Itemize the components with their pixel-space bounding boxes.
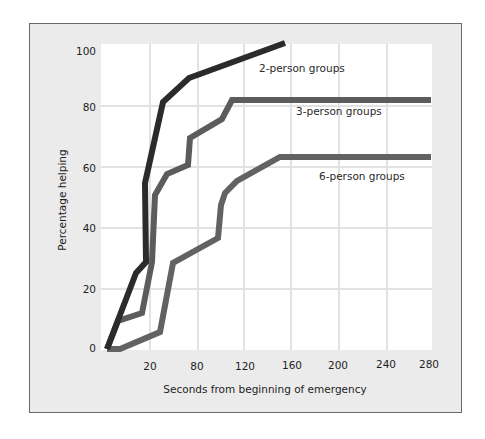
x-tick: 240	[376, 358, 396, 370]
x-tick: 200	[328, 359, 348, 371]
x-tick: 280	[419, 358, 439, 370]
x-tick: 160	[282, 359, 302, 371]
x-axis-title: Seconds from beginning of emergency	[163, 383, 366, 395]
y-axis-title: Percentage helping	[56, 149, 68, 250]
x-tick: 120	[235, 360, 255, 372]
x-tick: 80	[190, 360, 203, 372]
series-label-6-person: 6-person groups	[319, 170, 405, 182]
y-tick: 20	[83, 283, 96, 295]
y-tick: 0	[89, 342, 96, 354]
y-tick: 60	[83, 162, 96, 174]
series-label-2-person: 2-person groups	[259, 62, 345, 74]
x-tick: 20	[143, 360, 156, 372]
y-tick: 100	[76, 45, 96, 57]
line-chart: 2-person groups 3-person groups 6-person…	[0, 0, 485, 439]
x-axis-ticks: 20 80 120 160 200 240 280	[143, 358, 439, 372]
y-tick: 40	[83, 222, 96, 234]
series-label-3-person: 3-person groups	[296, 105, 382, 117]
y-tick: 80	[83, 101, 96, 113]
y-axis-ticks: 0 20 40 60 80 100	[76, 45, 96, 354]
